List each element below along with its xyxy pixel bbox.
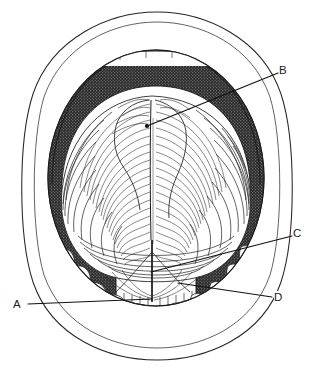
anatomy-figure: A B C D A B C D	[0, 0, 315, 375]
upper-lip-rim	[70, 45, 242, 67]
oral-cavity	[44, 45, 268, 337]
figure-drawing: A B C D	[0, 0, 315, 375]
